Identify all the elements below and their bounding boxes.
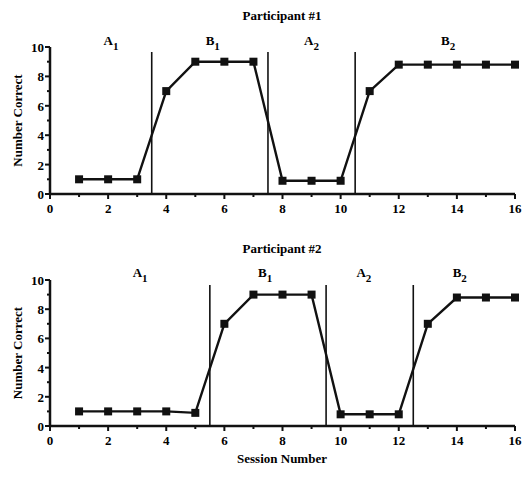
data-point-marker bbox=[337, 177, 345, 185]
x-tick-label: 4 bbox=[163, 433, 170, 448]
phase-label: B1 bbox=[206, 33, 220, 52]
data-point-marker bbox=[453, 61, 461, 69]
x-tick-label: 0 bbox=[47, 433, 54, 448]
data-point-marker bbox=[133, 407, 141, 415]
data-point-marker bbox=[482, 61, 490, 69]
phase-label: A1 bbox=[104, 33, 119, 52]
phase-label: A1 bbox=[133, 265, 148, 284]
y-tick-label: 8 bbox=[38, 69, 45, 84]
data-point-marker bbox=[511, 61, 519, 69]
y-tick-label: 2 bbox=[38, 158, 45, 173]
data-point-marker bbox=[104, 175, 112, 183]
x-tick-label: 14 bbox=[450, 201, 464, 216]
data-point-marker bbox=[511, 294, 519, 302]
data-point-marker bbox=[279, 177, 287, 185]
data-point-marker bbox=[482, 294, 490, 302]
data-point-marker bbox=[133, 175, 141, 183]
x-tick-label: 12 bbox=[392, 201, 405, 216]
chart-canvas: Participant #102468101214160246810Number… bbox=[0, 0, 531, 479]
x-tick-label: 4 bbox=[163, 201, 170, 216]
y-tick-label: 8 bbox=[38, 302, 45, 317]
y-tick-label: 0 bbox=[38, 419, 45, 434]
y-tick-label: 10 bbox=[31, 273, 44, 288]
chart-title: Participant #1 bbox=[242, 8, 321, 23]
phase-label: B2 bbox=[441, 33, 456, 52]
data-point-marker bbox=[424, 61, 432, 69]
x-tick-label: 10 bbox=[334, 201, 347, 216]
x-tick-label: 8 bbox=[279, 433, 286, 448]
y-tick-label: 6 bbox=[38, 99, 45, 114]
x-tick-label: 14 bbox=[450, 433, 464, 448]
data-point-marker bbox=[162, 87, 170, 95]
y-tick-label: 0 bbox=[38, 187, 45, 202]
y-tick-label: 4 bbox=[38, 361, 45, 376]
y-tick-label: 6 bbox=[38, 331, 45, 346]
data-point-marker bbox=[453, 294, 461, 302]
data-point-marker bbox=[75, 407, 83, 415]
chart-title: Participant #2 bbox=[242, 241, 321, 256]
y-tick-label: 10 bbox=[31, 40, 44, 55]
x-tick-label: 10 bbox=[334, 433, 347, 448]
data-point-marker bbox=[424, 320, 432, 328]
data-point-marker bbox=[279, 291, 287, 299]
x-tick-label: 6 bbox=[221, 433, 228, 448]
phase-label: B2 bbox=[453, 265, 468, 284]
x-tick-label: 16 bbox=[509, 433, 523, 448]
data-point-marker bbox=[395, 410, 403, 418]
x-tick-label: 6 bbox=[221, 201, 228, 216]
data-point-marker bbox=[308, 291, 316, 299]
data-point-marker bbox=[75, 175, 83, 183]
y-tick-label: 4 bbox=[38, 128, 45, 143]
data-line bbox=[79, 295, 515, 415]
data-point-marker bbox=[191, 58, 199, 66]
data-point-marker bbox=[308, 177, 316, 185]
phase-label: B1 bbox=[258, 265, 272, 284]
data-line bbox=[79, 62, 515, 181]
data-point-marker bbox=[366, 87, 374, 95]
data-point-marker bbox=[104, 407, 112, 415]
x-tick-label: 12 bbox=[392, 433, 405, 448]
y-axis-label: Number Correct bbox=[10, 74, 25, 167]
phase-label: A2 bbox=[304, 33, 319, 52]
data-point-marker bbox=[191, 409, 199, 417]
data-point-marker bbox=[220, 320, 228, 328]
chart-panel-1: Participant #102468101214160246810Number… bbox=[10, 8, 522, 216]
data-point-marker bbox=[249, 58, 257, 66]
data-point-marker bbox=[337, 410, 345, 418]
x-axis-label: Session Number bbox=[237, 451, 327, 466]
data-point-marker bbox=[366, 410, 374, 418]
x-tick-label: 0 bbox=[47, 201, 54, 216]
data-point-marker bbox=[162, 407, 170, 415]
phase-label: A2 bbox=[356, 265, 371, 284]
data-point-marker bbox=[220, 58, 228, 66]
x-tick-label: 8 bbox=[279, 201, 286, 216]
data-point-marker bbox=[249, 291, 257, 299]
y-axis-label: Number Correct bbox=[10, 306, 25, 399]
x-tick-label: 2 bbox=[105, 433, 112, 448]
x-tick-label: 2 bbox=[105, 201, 112, 216]
data-point-marker bbox=[395, 61, 403, 69]
x-tick-label: 16 bbox=[509, 201, 523, 216]
chart-panel-2: Participant #202468101214160246810Number… bbox=[10, 241, 522, 466]
y-tick-label: 2 bbox=[38, 390, 45, 405]
